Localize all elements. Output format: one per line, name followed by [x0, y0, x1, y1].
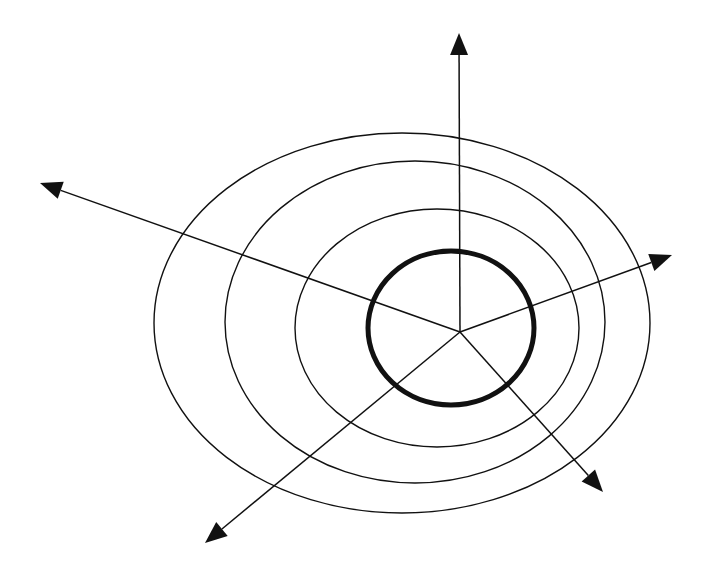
middle-ring	[225, 161, 605, 483]
arrow-right	[460, 254, 672, 332]
concentric-rings	[154, 133, 650, 513]
arrow-lower-left	[205, 332, 460, 543]
arrowhead-icon	[205, 522, 228, 543]
arrow-shaft	[460, 263, 651, 332]
arrowhead-icon	[648, 254, 672, 271]
arrow-shaft	[61, 190, 460, 332]
arrow-lower-right	[460, 332, 603, 492]
arrow-up	[450, 33, 468, 332]
arrowhead-icon	[582, 470, 603, 492]
arrow-upper-left	[40, 182, 460, 332]
radial-vector-diagram	[0, 0, 705, 574]
radiating-arrows	[40, 33, 672, 543]
arrowhead-icon	[40, 182, 64, 199]
core-ring	[368, 251, 534, 405]
arrow-shaft	[222, 332, 460, 529]
arrow-shaft	[459, 55, 460, 332]
arrowhead-icon	[450, 33, 468, 55]
outer-ring	[154, 133, 650, 513]
